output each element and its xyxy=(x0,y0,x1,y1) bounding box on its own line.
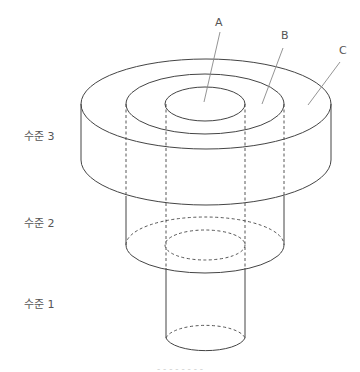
level-2-label: 수준 2 xyxy=(24,214,55,230)
leader-C xyxy=(308,62,340,105)
outer-top-ellipse xyxy=(81,59,331,149)
leader-B xyxy=(262,48,283,104)
outer-bottom-arc xyxy=(81,160,331,205)
inner-top-ellipse xyxy=(165,87,245,121)
level-1-label: 수준 1 xyxy=(24,295,55,311)
middle-top-ellipse xyxy=(126,74,284,134)
level-3-label: 수준 3 xyxy=(24,127,55,143)
label-A: A xyxy=(215,16,223,29)
inner-bottom-arc xyxy=(166,338,245,351)
nested-cylinders-diagram xyxy=(0,0,360,372)
leader-A xyxy=(204,32,220,102)
middle-bottom-arc xyxy=(126,245,284,273)
figure-caption: - - - - - - - - xyxy=(0,364,360,372)
label-B: B xyxy=(281,29,289,42)
label-C: C xyxy=(339,44,347,57)
